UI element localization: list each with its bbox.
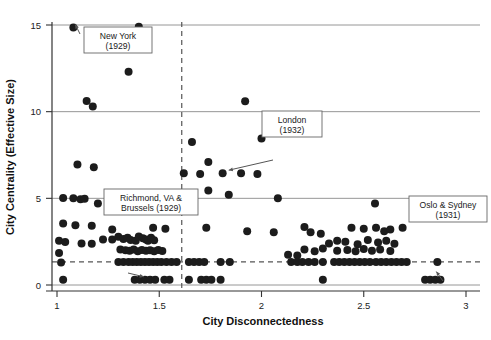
data-point xyxy=(160,276,168,284)
callout-label-new-york: (1929) xyxy=(106,41,131,51)
data-point xyxy=(371,200,379,208)
data-point xyxy=(150,236,158,244)
x-tick-label-3: 3 xyxy=(463,300,468,311)
data-point xyxy=(319,258,327,266)
x-tick-label-2.5: 2.5 xyxy=(357,300,370,311)
plot-canvas: 11.522.53 051015 City Disconnectedness C… xyxy=(0,0,491,340)
data-point xyxy=(217,258,225,266)
data-point xyxy=(180,169,188,177)
data-point xyxy=(386,226,394,234)
data-point xyxy=(108,226,116,234)
data-point xyxy=(347,224,355,232)
data-point xyxy=(57,258,65,266)
data-point xyxy=(83,97,91,105)
callout-label-new-york: New York xyxy=(100,31,137,41)
x-tick-label-1: 1 xyxy=(54,300,59,311)
leader-arrow-london xyxy=(229,167,233,171)
data-point xyxy=(204,158,212,166)
data-point xyxy=(333,237,341,245)
data-point xyxy=(243,227,251,235)
data-point xyxy=(158,247,166,255)
data-point xyxy=(368,247,376,255)
callout-label-oslo-sydney: (1931) xyxy=(436,210,461,220)
data-point xyxy=(207,276,215,284)
data-point xyxy=(71,221,79,229)
data-point xyxy=(204,187,212,195)
data-point xyxy=(59,276,67,284)
x-axis-title: City Disconnectedness xyxy=(202,315,323,327)
data-point xyxy=(55,249,63,257)
y-tick-label-0: 0 xyxy=(36,280,41,291)
data-point xyxy=(61,238,69,246)
x-axis-ticks: 11.522.53 xyxy=(54,291,468,311)
annotation-callouts: New York(1929)London(1932)Richmond, VA &… xyxy=(84,27,487,222)
data-point xyxy=(333,247,341,255)
data-point xyxy=(73,161,81,169)
callout-label-london: (1932) xyxy=(280,125,305,135)
data-point xyxy=(173,258,181,266)
data-point xyxy=(90,163,98,171)
data-point xyxy=(89,102,97,110)
data-point xyxy=(151,276,159,284)
data-point xyxy=(319,276,327,284)
data-point xyxy=(376,245,384,253)
data-point xyxy=(188,138,196,146)
data-point xyxy=(225,191,233,199)
callout-label-london: London xyxy=(278,115,307,125)
data-point xyxy=(300,223,308,231)
data-point xyxy=(81,195,89,203)
data-point xyxy=(94,200,102,208)
y-tick-label-15: 15 xyxy=(30,20,41,31)
data-point xyxy=(226,258,234,266)
data-point xyxy=(311,258,319,266)
data-point xyxy=(382,237,390,245)
data-point xyxy=(274,194,282,202)
y-tick-label-10: 10 xyxy=(30,106,41,117)
reference-lines xyxy=(52,22,480,291)
scatter-plot-figure: 11.522.53 051015 City Disconnectedness C… xyxy=(0,0,491,340)
data-point xyxy=(202,224,210,232)
data-point xyxy=(59,194,67,202)
data-point xyxy=(59,219,67,227)
data-point xyxy=(341,238,349,246)
data-point xyxy=(241,97,249,105)
leader-line-london xyxy=(229,160,273,170)
data-point xyxy=(390,240,398,248)
data-point xyxy=(185,276,193,284)
data-point xyxy=(270,228,278,236)
x-tick-label-2: 2 xyxy=(259,300,264,311)
data-point xyxy=(284,251,292,259)
data-point xyxy=(161,225,169,233)
axes xyxy=(46,22,480,291)
data-point xyxy=(69,194,77,202)
y-axis-ticks: 051015 xyxy=(30,20,52,291)
data-point xyxy=(217,276,225,284)
data-point xyxy=(317,230,325,238)
callout-label-richmond-brussels: Brussels (1929) xyxy=(121,203,181,213)
data-point xyxy=(352,247,360,255)
y-axis-title: City Centrality (Effective Size) xyxy=(4,79,16,235)
data-point xyxy=(360,225,368,233)
data-points-group xyxy=(55,23,444,284)
data-point xyxy=(360,245,368,253)
data-point xyxy=(364,236,372,244)
gridlines-horizontal xyxy=(52,25,480,285)
data-point xyxy=(343,246,351,254)
data-point xyxy=(386,247,394,255)
data-point xyxy=(307,228,315,236)
data-point xyxy=(325,239,333,247)
data-point xyxy=(99,236,107,244)
callout-label-oslo-sydney: Oslo & Sydney xyxy=(420,200,478,210)
data-point xyxy=(78,239,86,247)
callout-label-richmond-brussels: Richmond, VA & xyxy=(120,193,182,203)
data-point xyxy=(88,222,96,230)
data-point xyxy=(253,170,261,178)
x-tick-label-1.5: 1.5 xyxy=(153,300,166,311)
data-point xyxy=(200,258,208,266)
data-point xyxy=(403,258,411,266)
data-point xyxy=(433,258,441,266)
data-point xyxy=(319,245,327,253)
data-point xyxy=(372,224,380,232)
data-point xyxy=(125,68,133,76)
y-tick-label-5: 5 xyxy=(36,193,41,204)
